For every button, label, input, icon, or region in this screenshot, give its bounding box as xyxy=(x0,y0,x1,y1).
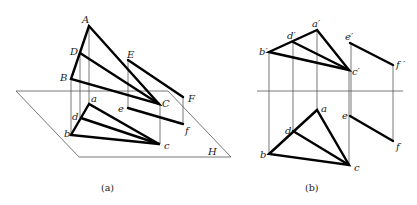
line-e1f1 xyxy=(350,43,393,65)
label-a-prime: a′ xyxy=(312,18,321,29)
label-C: C xyxy=(162,98,170,109)
label-f-prime: f ′ xyxy=(395,59,406,70)
line-d1c1 xyxy=(293,42,349,70)
caption-a: (a) xyxy=(101,182,114,193)
label-e-top: e xyxy=(342,110,348,121)
label-E: E xyxy=(126,49,135,60)
label-d: d xyxy=(72,111,78,122)
label-c-top: c xyxy=(354,162,360,173)
line-ef-top xyxy=(350,116,393,141)
figure-a: A D B C E F a d b c e f H (a) xyxy=(16,14,231,193)
label-a-top: a xyxy=(321,103,327,114)
label-c-prime: c′ xyxy=(352,66,361,77)
label-f: f xyxy=(184,125,191,136)
label-b-top: b xyxy=(260,149,266,160)
line-ef xyxy=(128,108,183,124)
label-e: e xyxy=(118,103,124,114)
label-A: A xyxy=(81,14,89,25)
label-B: B xyxy=(59,72,67,83)
descriptive-geometry-figure: A D B C E F a d b c e f H (a) a′ d′ xyxy=(0,0,417,205)
triangle-abc xyxy=(71,104,159,144)
label-d-prime: d′ xyxy=(287,30,296,41)
label-F: F xyxy=(187,93,196,104)
label-D: D xyxy=(69,46,78,57)
figure-b: a′ d′ b′ c′ e′ f ′ a d b c e f (b) xyxy=(257,18,406,193)
label-c: c xyxy=(164,140,170,151)
label-H: H xyxy=(207,146,217,157)
label-d-top: d xyxy=(285,125,291,136)
label-b: b xyxy=(64,128,70,139)
triangle-ABC xyxy=(71,26,159,104)
caption-b: (b) xyxy=(305,182,319,193)
label-a: a xyxy=(91,93,97,104)
label-b-prime: b′ xyxy=(259,46,268,57)
line-dc-top xyxy=(293,131,349,165)
label-e-prime: e′ xyxy=(345,31,354,42)
label-f-top: f xyxy=(395,141,402,152)
